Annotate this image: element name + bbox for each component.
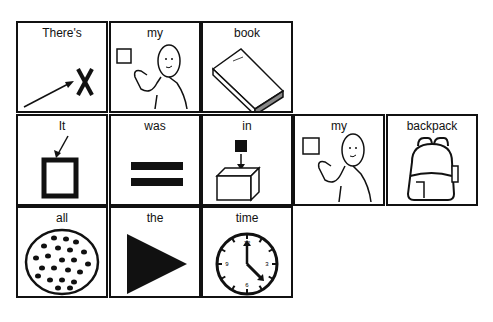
book-icon [203, 39, 291, 111]
person-self-icon [295, 132, 383, 204]
dotted-circle-icon [18, 224, 106, 296]
card-label: book [203, 26, 291, 40]
into-box-icon [203, 132, 291, 204]
symbol-card-it[interactable]: It [16, 114, 108, 206]
symbol-card-backpack[interactable]: backpack [386, 114, 478, 206]
card-label: time [203, 211, 291, 225]
card-label: my [111, 26, 199, 40]
symbol-card-all[interactable]: all [16, 206, 108, 298]
card-label: was [111, 119, 199, 133]
card-label: backpack [388, 119, 476, 133]
symbol-card-my[interactable]: my [109, 21, 201, 113]
card-label: in [203, 119, 291, 133]
symbol-card-my-2[interactable]: my [293, 114, 385, 206]
backpack-icon [388, 132, 476, 204]
pointing-arrow-x-icon [18, 39, 106, 111]
card-label: There's [18, 26, 106, 40]
triangle-icon [111, 224, 199, 296]
card-label: It [18, 119, 106, 133]
equals-icon [111, 132, 199, 204]
symbol-card-in[interactable]: in [201, 114, 293, 206]
symbol-card-theres[interactable]: There's [16, 21, 108, 113]
arrow-to-square-icon [18, 132, 106, 204]
clock-icon: 12 3 6 9 [203, 224, 291, 296]
symbol-card-time[interactable]: time 12 3 6 9 [201, 206, 293, 298]
symbol-card-book[interactable]: book [201, 21, 293, 113]
person-self-icon [111, 39, 199, 111]
card-label: the [111, 211, 199, 225]
card-label: all [18, 211, 106, 225]
symbol-card-the[interactable]: the [109, 206, 201, 298]
symbol-card-was[interactable]: was [109, 114, 201, 206]
card-label: my [295, 119, 383, 133]
